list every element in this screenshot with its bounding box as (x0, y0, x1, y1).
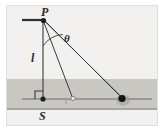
ground-band-bottom-edge (6, 108, 158, 110)
base-point-dot (40, 96, 45, 101)
mid-bob-marker (71, 96, 75, 100)
angle-label-theta: θ (64, 33, 70, 44)
far-bob-ball (118, 95, 125, 102)
base-label-S: S (39, 110, 46, 122)
physics-figure: P θ l S (0, 0, 164, 131)
ground-shaded-band (6, 79, 158, 110)
pivot-label-P: P (41, 6, 48, 18)
length-label-l: l (31, 52, 34, 64)
figure-canvas (0, 0, 164, 131)
